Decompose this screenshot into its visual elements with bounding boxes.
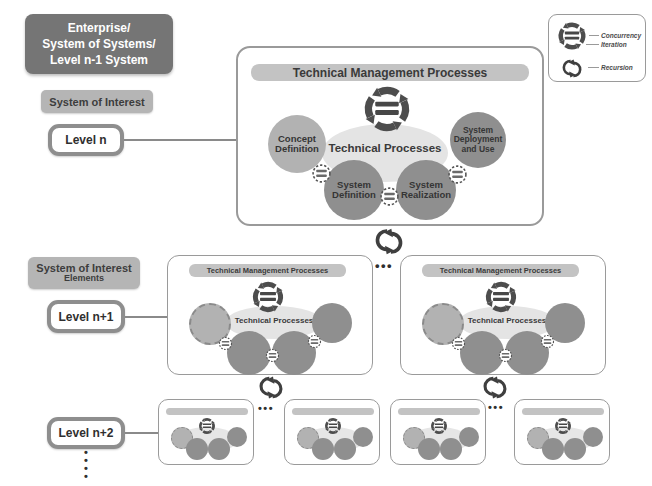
horizontal-ellipsis-n2-right: •••	[488, 401, 504, 413]
iteration-junction-icon	[447, 164, 468, 185]
iteration-junction-icon	[540, 334, 555, 349]
system-of-interest-elements-label: System of Interest Elements	[28, 257, 140, 289]
level-n2-element-box-1	[158, 399, 254, 465]
system-deployment-circle	[353, 427, 373, 447]
technical-processes-label: Technical Processes	[312, 142, 458, 154]
concurrency-iteration-icon	[359, 81, 415, 137]
legend-pointer-line	[589, 35, 599, 36]
legend-label-recursion: Recursion	[601, 64, 633, 71]
system-realization-circle	[334, 438, 356, 460]
level-n2-element-box-2	[284, 399, 380, 465]
iteration-junction-icon	[307, 334, 322, 349]
iteration-junction-icon	[451, 336, 466, 351]
enterprise-label: Enterprise/ System of Systems/ Level n-1…	[25, 14, 173, 74]
level-n-system-box: Technical Management Processes Technical…	[236, 46, 544, 226]
level-n-plus-1-pill: Level n+1	[47, 300, 125, 333]
technical-management-processes-bar	[166, 408, 248, 415]
iteration-junction-icon	[218, 336, 233, 351]
system-of-interest-label: System of Interest	[41, 90, 153, 113]
technical-management-processes-bar: Technical Management Processes	[251, 64, 529, 81]
level-n2-element-box-3	[390, 399, 486, 465]
level-n-plus-2-pill: Level n+2	[47, 417, 125, 449]
connector-level-n1	[125, 316, 167, 318]
technical-management-processes-bar: Technical Management Processes	[422, 264, 579, 277]
system-definition-circle: System Definition	[324, 160, 384, 220]
concurrency-iteration-icon	[429, 416, 449, 436]
concurrency-iteration-icon	[197, 416, 217, 436]
level-n2-element-box-4	[514, 399, 610, 465]
level-n-pill: Level n	[48, 124, 124, 156]
system-definition-circle	[418, 438, 440, 460]
iteration-junction-icon	[498, 348, 513, 363]
concurrency-iteration-icon	[482, 278, 520, 316]
system-deployment-circle	[459, 427, 479, 447]
system-definition-circle	[312, 438, 334, 460]
concurrency-iteration-icon	[555, 19, 589, 53]
system-realization-circle	[440, 438, 462, 460]
system-realization-circle	[564, 438, 586, 460]
connector-level-n	[124, 139, 236, 141]
diagram-canvas: Enterprise/ System of Systems/ Level n-1…	[0, 0, 652, 486]
system-deployment-circle: System Deployment and Use	[450, 112, 506, 168]
recursion-arrows-n-to-n1	[366, 227, 412, 256]
iteration-junction-icon	[379, 186, 400, 207]
connector-level-n2	[125, 432, 158, 434]
iteration-junction-icon	[265, 348, 280, 363]
soi-elements-line2: Elements	[64, 274, 104, 283]
concurrency-iteration-icon	[249, 278, 287, 316]
legend-label-concurrency: Concurrency	[601, 32, 641, 39]
technical-management-processes-bar	[292, 408, 374, 415]
recursion-arrows-n1-right	[476, 375, 514, 400]
iteration-junction-icon	[311, 163, 332, 184]
technical-management-processes-bar	[522, 408, 604, 415]
system-definition-circle	[542, 438, 564, 460]
concurrency-iteration-icon	[323, 416, 343, 436]
level-n1-element-box-right: Technical Management Processes Technical…	[400, 255, 606, 375]
system-definition-circle	[186, 438, 208, 460]
level-n1-element-box-left: Technical Management Processes Technical…	[167, 255, 373, 375]
recursion-arrows-n1-left	[252, 375, 290, 400]
recursion-icon	[558, 58, 586, 79]
legend-pointer-line	[586, 44, 599, 45]
vertical-ellipsis: • • • •	[79, 449, 93, 481]
legend-label-iteration: Iteration	[601, 41, 627, 48]
horizontal-ellipsis-n2-left: •••	[258, 402, 274, 414]
technical-management-processes-bar: Technical Management Processes	[189, 264, 346, 277]
horizontal-ellipsis-n1: •••	[375, 258, 393, 273]
system-realization-circle	[208, 438, 230, 460]
legend-box: Concurrency Iteration Recursion	[548, 14, 646, 82]
technical-management-processes-bar	[398, 408, 480, 415]
legend-pointer-line	[588, 67, 599, 68]
system-deployment-circle	[583, 427, 603, 447]
concurrency-iteration-icon	[553, 416, 573, 436]
system-deployment-circle	[227, 427, 247, 447]
